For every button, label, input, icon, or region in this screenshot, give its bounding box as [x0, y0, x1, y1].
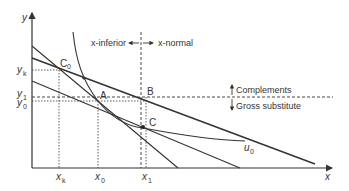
budget-line-bold	[32, 58, 315, 164]
svg-text:x: x	[141, 171, 148, 182]
label-u0: u 0	[244, 142, 254, 155]
x-axis-label: x	[324, 171, 331, 182]
svg-text:x: x	[94, 171, 101, 182]
budget-line-steep	[32, 46, 178, 168]
y-axis-label: y	[21, 12, 28, 23]
svg-text:1: 1	[23, 94, 27, 101]
indifference-curve-u0	[73, 32, 245, 141]
x-normal-label: x-normal	[158, 38, 193, 48]
x-tick-xk: x k	[55, 171, 66, 184]
label-c0: C 0	[60, 58, 71, 70]
label-b: B	[147, 86, 154, 97]
svg-text:x: x	[55, 171, 62, 182]
svg-text:k: k	[62, 177, 66, 184]
label-a: A	[100, 90, 107, 101]
svg-text:y: y	[16, 97, 23, 108]
complements-label: Complements	[236, 85, 292, 95]
point-tangency-marker	[82, 76, 85, 79]
y-tick-yk: y k	[16, 64, 27, 77]
svg-text:0: 0	[67, 63, 71, 70]
svg-text:1: 1	[148, 177, 152, 184]
gross-substitute-label: Gross substitute	[236, 101, 301, 111]
svg-text:0: 0	[250, 148, 254, 155]
point-c-marker	[141, 125, 145, 129]
x-inferior-label: x-inferior	[91, 38, 126, 48]
svg-text:k: k	[23, 70, 27, 77]
svg-text:0: 0	[23, 103, 27, 110]
diagram-canvas: y x y k y 1 y 0 x k x 0 x 1 C 0 A B C u …	[0, 0, 349, 191]
label-c: C	[149, 117, 156, 128]
x-tick-x1: x 1	[141, 171, 152, 184]
svg-text:y: y	[16, 64, 23, 75]
svg-text:0: 0	[101, 177, 105, 184]
x-tick-x0: x 0	[94, 171, 105, 184]
